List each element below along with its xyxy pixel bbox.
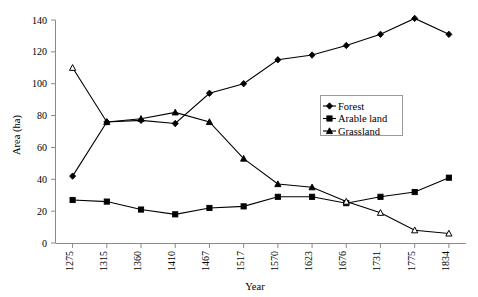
data-point-square	[241, 204, 246, 209]
x-tick-label: 1676	[337, 251, 348, 271]
x-axis-title: Year	[245, 281, 265, 292]
x-tick-label: 1517	[235, 251, 246, 271]
y-tick-label: 0	[42, 238, 47, 249]
data-point-square	[309, 194, 314, 199]
chart-container: 020406080100120140 127513151360141014671…	[0, 0, 478, 297]
x-tick-label: 1623	[303, 251, 314, 271]
data-point-square	[378, 194, 383, 199]
data-point-square	[207, 205, 212, 210]
chart-legend: ForestArable landGrassland	[321, 96, 403, 137]
y-axis-title: Area (ha)	[11, 115, 23, 155]
data-point-square	[327, 116, 332, 121]
data-point-square	[70, 197, 75, 202]
y-tick-label: 20	[37, 206, 47, 217]
data-point-square	[275, 194, 280, 199]
data-point-square	[446, 175, 451, 180]
x-tick-label: 1731	[371, 251, 382, 271]
legend-label: Arable land	[338, 113, 388, 124]
data-point-square	[104, 199, 109, 204]
data-point-square	[138, 207, 143, 212]
y-tick-label: 100	[32, 78, 47, 89]
x-tick-label: 1315	[98, 251, 109, 271]
y-tick-label: 60	[37, 142, 47, 153]
line-chart: 020406080100120140 127513151360141014671…	[0, 0, 478, 297]
y-tick-label: 40	[37, 174, 47, 185]
y-tick-label: 80	[37, 110, 47, 121]
x-tick-label: 1467	[200, 251, 211, 271]
legend-label: Forest	[338, 101, 364, 112]
legend-label: Grassland	[338, 126, 381, 137]
data-point-square	[173, 212, 178, 217]
x-tick-label: 1834	[440, 251, 451, 271]
x-tick-label: 1410	[166, 251, 177, 271]
x-tick-label: 1570	[269, 251, 280, 271]
y-tick-label: 120	[32, 46, 47, 57]
x-tick-label: 1275	[64, 251, 75, 271]
x-tick-label: 1775	[406, 251, 417, 271]
x-tick-label: 1360	[132, 251, 143, 271]
data-point-square	[412, 189, 417, 194]
y-tick-label: 140	[32, 15, 47, 26]
